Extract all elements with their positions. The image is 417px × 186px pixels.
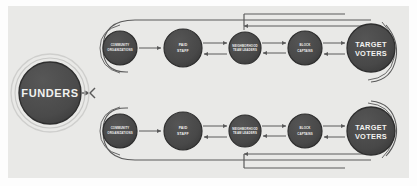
- neighborhood-team-leaders-top-label-1: NEIGHBORHOOD: [232, 44, 257, 48]
- community-organizations-bottom-label-1: COMMUNITY: [111, 126, 130, 130]
- community-organizations-bottom-label-2: ORGANIZATIONS: [107, 131, 132, 135]
- node-paid-staff-bottom[interactable]: PAID STAFF: [164, 112, 202, 150]
- node-community-organizations-top[interactable]: COMMUNITY ORGANIZATIONS: [103, 31, 137, 65]
- neighborhood-team-leaders-bottom-label-2: TEAM LEADERS: [233, 131, 257, 135]
- node-neighborhood-team-leaders-bottom[interactable]: NEIGHBORHOOD TEAM LEADERS: [229, 115, 261, 147]
- diagram-svg: FUNDERS COMMUNITY ORGANIZATIONS PAID STA…: [0, 0, 417, 186]
- target-voters-bottom-label-2: VOTERS: [355, 132, 387, 141]
- paid-staff-top-label-2: STAFF: [177, 49, 189, 53]
- node-block-captains-bottom[interactable]: BLOCK CAPTAINS: [288, 114, 322, 148]
- node-layer: FUNDERS COMMUNITY ORGANIZATIONS PAID STA…: [11, 24, 395, 155]
- community-organizations-top-label-2: ORGANIZATIONS: [107, 48, 132, 52]
- node-community-organizations-bottom[interactable]: COMMUNITY ORGANIZATIONS: [103, 114, 137, 148]
- target-voters-bottom-label-1: TARGET: [355, 123, 387, 132]
- neighborhood-team-leaders-bottom-label-1: NEIGHBORHOOD: [232, 127, 257, 131]
- node-neighborhood-team-leaders-top[interactable]: NEIGHBORHOOD TEAM LEADERS: [229, 32, 261, 64]
- block-captains-top-label-1: BLOCK: [300, 43, 312, 47]
- target-voters-top-label-2: VOTERS: [355, 49, 387, 58]
- funders-branch-up: [90, 88, 95, 93]
- target-voters-top-label-1: TARGET: [355, 40, 387, 49]
- paid-staff-bottom-circle: [164, 112, 202, 150]
- paid-staff-bottom-label-1: PAID: [179, 126, 188, 130]
- node-block-captains-top[interactable]: BLOCK CAPTAINS: [288, 31, 322, 65]
- paid-staff-top-label-1: PAID: [179, 43, 188, 47]
- node-funders[interactable]: FUNDERS: [11, 54, 89, 132]
- block-captains-top-label-2: CAPTAINS: [297, 49, 312, 53]
- funders-label: FUNDERS: [21, 87, 78, 99]
- neighborhood-team-leaders-top-label-2: TEAM LEADERS: [233, 48, 257, 52]
- diagram-canvas: FUNDERS COMMUNITY ORGANIZATIONS PAID STA…: [0, 0, 417, 186]
- community-organizations-top-label-1: COMMUNITY: [111, 43, 130, 47]
- node-target-voters-bottom[interactable]: TARGET VOTERS: [347, 107, 395, 155]
- block-captains-bottom-label-1: BLOCK: [300, 126, 312, 130]
- block-captains-bottom-label-2: CAPTAINS: [297, 132, 312, 136]
- funders-branch-down: [90, 93, 95, 98]
- node-paid-staff-top[interactable]: PAID STAFF: [164, 29, 202, 67]
- node-target-voters-top[interactable]: TARGET VOTERS: [347, 24, 395, 72]
- paid-staff-top-circle: [164, 29, 202, 67]
- paid-staff-bottom-label-2: STAFF: [177, 132, 189, 136]
